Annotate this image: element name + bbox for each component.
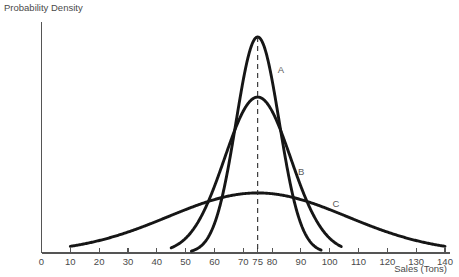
density-curve-a xyxy=(191,37,321,251)
x-tick-label: 10 xyxy=(65,256,76,267)
x-tick-label: 50 xyxy=(180,256,191,267)
x-tick-label: 20 xyxy=(94,256,105,267)
x-axis-tick-marks xyxy=(42,248,446,253)
x-axis-tick-labels: 010203040506070758090100110120130140 xyxy=(39,256,453,267)
x-tick-label: 70 xyxy=(238,256,249,267)
x-tick-label: 0 xyxy=(39,256,44,267)
x-tick-label: 100 xyxy=(322,256,338,267)
x-tick-label: 60 xyxy=(209,256,220,267)
plot-area: 010203040506070758090100110120130140 Pro… xyxy=(0,0,459,277)
x-axis-title: Sales (Tons) xyxy=(394,263,447,274)
y-axis-title: Probability Density xyxy=(4,2,83,13)
x-tick-label: 110 xyxy=(351,256,366,267)
x-tick-label: 120 xyxy=(379,256,395,267)
curve-label-a: A xyxy=(278,64,285,75)
axes-group xyxy=(42,22,451,253)
x-tick-label: 75 xyxy=(252,256,263,267)
density-curve-b xyxy=(171,97,341,248)
x-tick-label: 90 xyxy=(296,256,307,267)
x-tick-label: 40 xyxy=(151,256,162,267)
curve-label-c: C xyxy=(333,198,340,209)
probability-density-chart: 010203040506070758090100110120130140 Pro… xyxy=(0,0,459,277)
curve-label-b: B xyxy=(298,166,304,177)
x-tick-label: 80 xyxy=(267,256,278,267)
x-tick-label: 30 xyxy=(123,256,134,267)
